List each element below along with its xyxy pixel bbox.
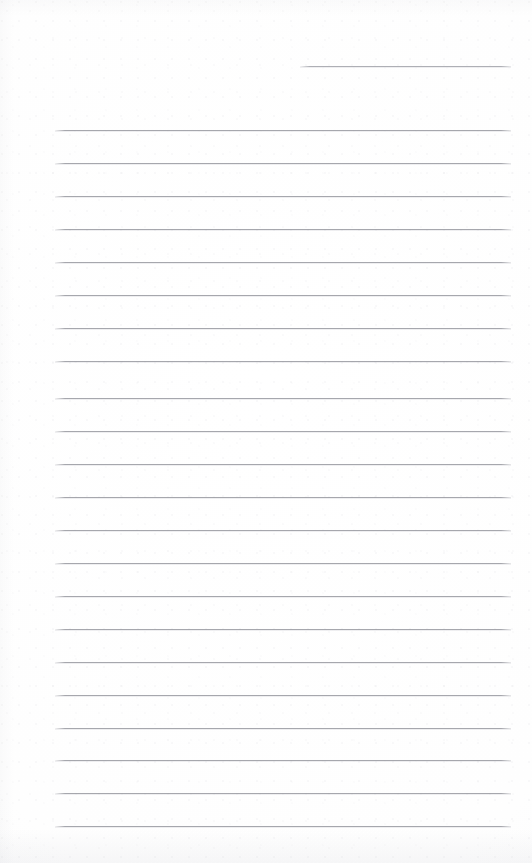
ruled-line [55,431,511,432]
ruled-line [55,464,511,465]
ruled-line [55,662,511,663]
ruled-lines-area [0,0,532,863]
ruled-line [55,163,511,164]
ruled-line [55,130,511,131]
ruled-line [55,826,511,827]
ruled-line [55,728,511,729]
scanned-page [0,0,532,863]
ruled-line [55,361,511,362]
ruled-line [55,695,511,696]
ruled-line [55,563,511,564]
ruled-line [55,262,511,263]
ruled-line [55,793,511,794]
ruled-line [55,398,511,399]
ruled-line [55,497,511,498]
ruled-line [55,295,511,296]
ruled-line [55,596,511,597]
ruled-line [55,196,511,197]
ruled-line [55,760,511,761]
ruled-line [55,328,511,329]
ruled-line [55,530,511,531]
ruled-line [55,629,511,630]
ruled-line [55,229,511,230]
